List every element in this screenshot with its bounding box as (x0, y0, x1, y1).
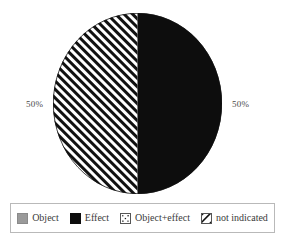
legend-item-object: Object (17, 213, 59, 224)
solid-gray-swatch-icon (17, 213, 28, 224)
legend-item-not-indicated: not indicated (201, 213, 268, 224)
legend-item-label: Effect (85, 213, 109, 223)
legend-item-label: Object+effect (135, 213, 190, 223)
legend-item-effect: Effect (70, 213, 109, 224)
dotted-swatch-icon (120, 213, 131, 224)
pie-chart: 50% 50% (0, 0, 289, 200)
legend-item-label: not indicated (216, 213, 268, 223)
pie-svg (53, 13, 222, 194)
pie-graphic (53, 13, 222, 194)
solid-black-swatch-icon (70, 213, 81, 224)
pie-label-effect: 50% (232, 99, 249, 109)
legend: Object Effect Object+effect not indicate… (10, 203, 275, 233)
legend-item-object-plus-effect: Object+effect (120, 213, 190, 224)
legend-item-label: Object (32, 213, 59, 223)
diagonal-hatch-swatch-icon (201, 213, 212, 224)
pie-label-not-indicated: 50% (26, 99, 43, 109)
